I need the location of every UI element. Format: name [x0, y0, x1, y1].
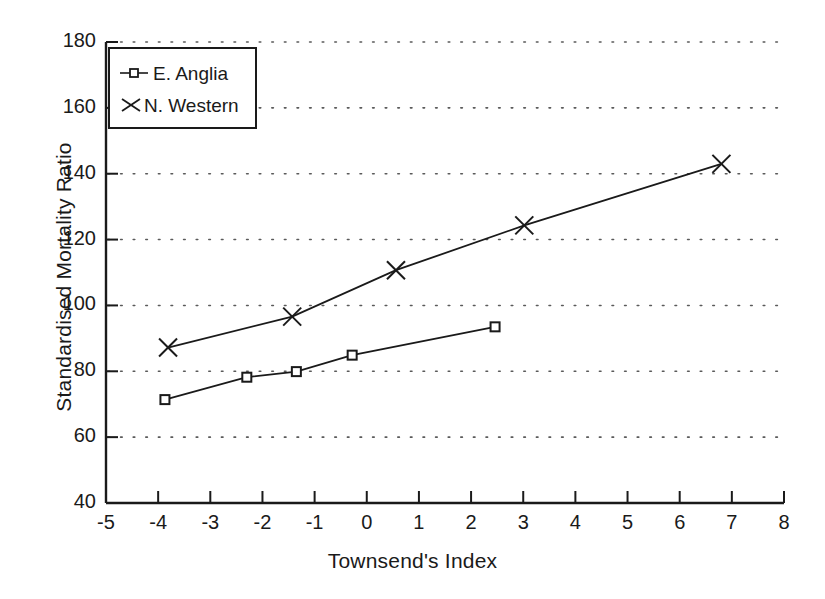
x-tick-label: 2 [451, 511, 491, 534]
y-tick-label: 80 [40, 358, 96, 381]
y-tick-label: 60 [40, 424, 96, 447]
legend-frame [109, 48, 256, 128]
x-axis-ticks [106, 491, 784, 503]
y-tick-label: 120 [40, 227, 96, 250]
x-tick-label: -2 [242, 511, 282, 534]
legend-box: E. Anglia N. Western [109, 48, 256, 128]
y-tick-label: 180 [40, 29, 96, 52]
x-tick-label: 6 [660, 511, 700, 534]
series-e-anglia [160, 322, 499, 404]
x-tick-label: 8 [764, 511, 804, 534]
x-tick-label: 4 [555, 511, 595, 534]
series-line [165, 327, 495, 400]
y-tick-label: 160 [40, 95, 96, 118]
x-tick-label: 5 [608, 511, 648, 534]
x-tick-label: -1 [295, 511, 335, 534]
data-point-square [160, 395, 169, 404]
legend-label-e-anglia: E. Anglia [153, 63, 228, 84]
square-marker-icon [130, 69, 138, 77]
chart-figure: E. Anglia N. Western Townsend's Index St… [0, 0, 825, 599]
x-tick-label: -5 [86, 511, 126, 534]
data-point-square [491, 322, 500, 331]
x-tick-label: 0 [347, 511, 387, 534]
y-tick-label: 100 [40, 292, 96, 315]
x-axis-title: Townsend's Index [0, 549, 825, 573]
plot-canvas: E. Anglia N. Western [0, 0, 825, 599]
legend-label-n-western: N. Western [144, 95, 239, 116]
x-tick-label: 3 [503, 511, 543, 534]
x-tick-label: -3 [190, 511, 230, 534]
data-point-square [348, 351, 357, 360]
series-n-western [159, 155, 730, 357]
series-line [168, 164, 721, 348]
x-tick-label: 1 [399, 511, 439, 534]
data-point-square [292, 367, 301, 376]
y-tick-label: 40 [40, 490, 96, 513]
x-tick-label: -4 [138, 511, 178, 534]
data-point-square [242, 373, 251, 382]
x-tick-label: 7 [712, 511, 752, 534]
y-tick-label: 140 [40, 161, 96, 184]
